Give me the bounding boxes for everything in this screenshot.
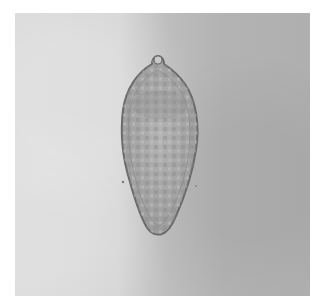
- figure-caption: [0, 296, 319, 305]
- micrograph-image: [15, 13, 310, 296]
- specimen-organism: [15, 13, 310, 296]
